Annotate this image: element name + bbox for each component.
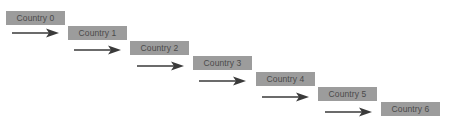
node-country-4: Country 4	[256, 72, 315, 86]
arrow-icon	[12, 28, 60, 38]
node-country-6: Country 6	[381, 102, 440, 116]
node-country-1: Country 1	[68, 26, 127, 40]
node-country-5: Country 5	[318, 87, 377, 101]
node-country-2: Country 2	[130, 41, 189, 55]
arrow-icon	[262, 92, 310, 102]
node-country-0: Country 0	[6, 11, 65, 25]
arrow-icon	[74, 45, 122, 55]
arrow-icon	[325, 107, 373, 117]
arrow-icon	[137, 61, 185, 71]
node-country-3: Country 3	[193, 56, 252, 70]
arrow-icon	[199, 76, 247, 86]
country-flow-diagram: Country 0 Country 1 Country 2 Country 3 …	[0, 0, 450, 126]
